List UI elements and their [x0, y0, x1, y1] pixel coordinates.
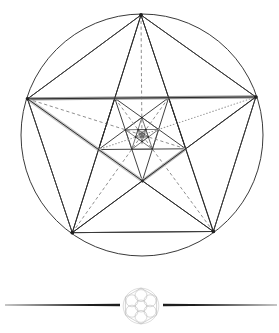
- pentagram-chord-top-3: [72, 15, 141, 233]
- vertex-node-L3-2: [137, 129, 139, 131]
- dashed-line-2: [141, 15, 142, 144]
- flower-hex-border: [125, 288, 156, 324]
- flower-of-life-ornament: [123, 288, 159, 324]
- flower-outer-circle: [123, 288, 159, 324]
- outer-circle: [21, 14, 263, 256]
- outer-vertex-4: [26, 97, 30, 101]
- outer-vertex-3: [70, 231, 74, 235]
- figure-canvas: [0, 0, 279, 333]
- pentagram-recursion-group: [21, 13, 263, 256]
- vertex-node-L3-4: [148, 136, 150, 138]
- vertex-node-L3-1: [135, 136, 137, 138]
- pentagram-chord-top-1: [72, 97, 256, 233]
- outer-vertex-0: [139, 13, 143, 17]
- vertex-node-L2-0: [141, 117, 143, 119]
- geometric-figure: [0, 0, 279, 333]
- vertex-node-L3-0: [141, 141, 143, 143]
- overlay-lines-group: [26, 13, 258, 234]
- divider-rule-right: [163, 304, 277, 306]
- outer-vertex-2: [212, 230, 216, 234]
- divider-group: [5, 288, 277, 324]
- pentagram-chord-top-2: [28, 99, 214, 232]
- vertex-node-L3-3: [145, 129, 147, 131]
- outer-vertex-1: [254, 95, 258, 99]
- pentagram-chord-top-0: [141, 15, 213, 231]
- inner-bottom-vertex: [141, 179, 144, 182]
- divider-rule-left: [5, 304, 120, 306]
